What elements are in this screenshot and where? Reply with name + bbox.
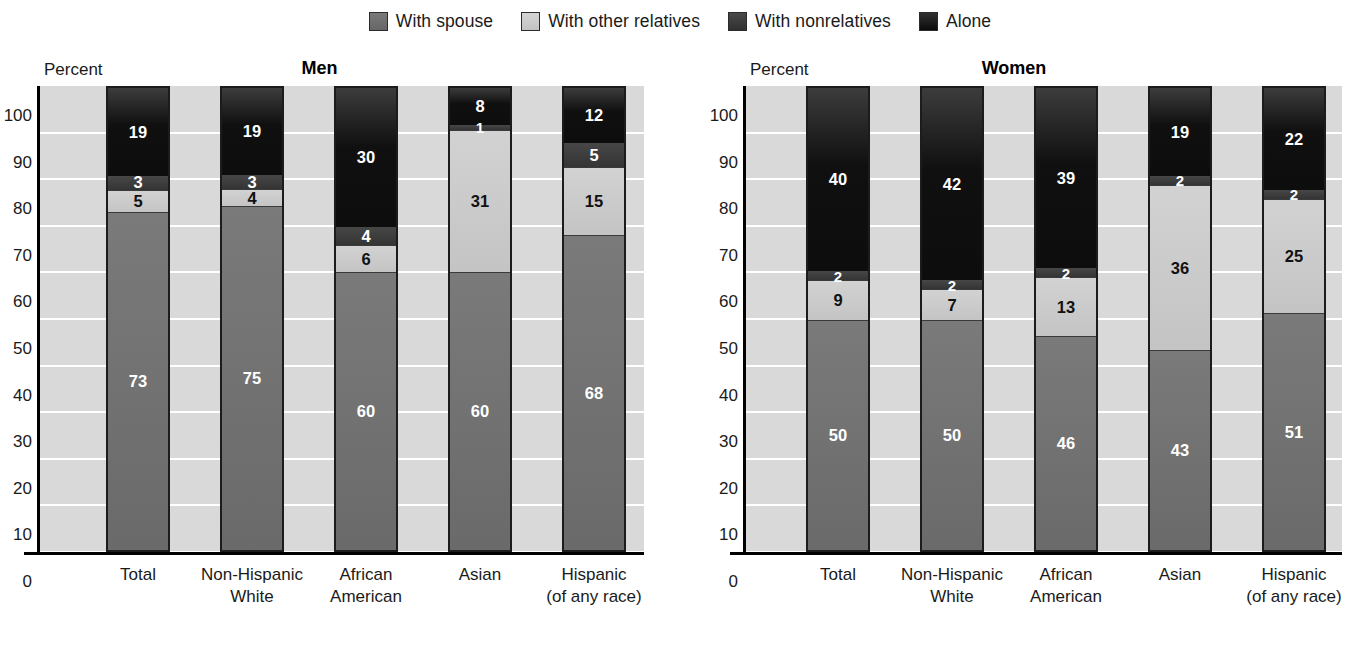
bar-segment-spouse[interactable]: 50 xyxy=(922,321,982,550)
bar-segment-nonrelatives[interactable]: 3 xyxy=(222,175,282,189)
y-axis-caption-men: Percent xyxy=(44,60,103,80)
bar-segment-value: 2 xyxy=(1176,173,1184,188)
bar-segment-nonrelatives[interactable]: 2 xyxy=(808,271,868,280)
y-axis-caption-women: Percent xyxy=(750,60,809,80)
bar-segment-value: 4 xyxy=(247,190,256,207)
bar-segment-value: 19 xyxy=(1171,124,1189,141)
bar-segment-nonrelatives[interactable]: 5 xyxy=(564,143,624,166)
bar-segment-nonrelatives[interactable]: 2 xyxy=(922,280,982,289)
bar-group-women: 402950422750392134619236432222551 xyxy=(746,86,1342,552)
legend-item-alone: Alone xyxy=(919,11,991,32)
bar-segment-value: 5 xyxy=(133,193,142,210)
y-axis-tick: 70 xyxy=(13,246,32,266)
x-axis-label: Hispanic(of any race) xyxy=(1224,564,1360,608)
x-axis-label: Hispanic(of any race) xyxy=(524,564,664,608)
chart-panel-women: Women Percent 1009080706050403020100 402… xyxy=(688,56,1360,646)
bar-segment-value: 7 xyxy=(947,297,956,314)
x-axis-line-women xyxy=(730,552,1342,555)
bar-segment-alone[interactable]: 19 xyxy=(222,88,282,175)
bar-segment-value: 36 xyxy=(1171,260,1189,277)
bar-segment-relatives[interactable]: 9 xyxy=(808,280,868,321)
x-axis-line-men xyxy=(24,552,644,555)
bar-segment-spouse[interactable]: 46 xyxy=(1036,337,1096,550)
y-axis-tick: 40 xyxy=(719,386,738,406)
y-axis-tick: 70 xyxy=(719,246,738,266)
bar-segment-relatives[interactable]: 25 xyxy=(1264,199,1324,315)
bar-segment-value: 31 xyxy=(471,193,489,210)
bar-segment-value: 25 xyxy=(1285,248,1303,265)
legend-swatch-icon xyxy=(369,12,388,31)
bar-segment-spouse[interactable]: 73 xyxy=(108,213,168,550)
bar-segment-spouse[interactable]: 75 xyxy=(222,207,282,550)
bar-segment-value: 6 xyxy=(361,251,370,268)
x-axis-label-line1: Hispanic xyxy=(1224,564,1360,586)
bar-segment-alone[interactable]: 30 xyxy=(336,88,396,227)
legend-label: With nonrelatives xyxy=(755,11,891,32)
bar-segment-nonrelatives[interactable]: 2 xyxy=(1036,268,1096,277)
bar-segment-relatives[interactable]: 6 xyxy=(336,245,396,273)
bar-segment-value: 12 xyxy=(585,107,603,124)
stacked-bar[interactable]: 3921346 xyxy=(1034,86,1098,552)
bar-segment-value: 3 xyxy=(133,174,142,191)
y-axis-tick: 30 xyxy=(719,432,738,452)
bar-segment-alone[interactable]: 19 xyxy=(108,88,168,176)
bar-segment-spouse[interactable]: 51 xyxy=(1264,314,1324,550)
x-axis-labels-men: TotalNon-HispanicWhiteAfricanAmericanAsi… xyxy=(0,558,675,642)
stacked-bar[interactable]: 193573 xyxy=(106,86,170,552)
bar-segment-nonrelatives[interactable]: 4 xyxy=(336,227,396,245)
bar-segment-nonrelatives[interactable]: 2 xyxy=(1150,176,1210,185)
bar-segment-value: 40 xyxy=(829,171,847,188)
bar-segment-alone[interactable]: 22 xyxy=(1264,88,1324,190)
bar-segment-nonrelatives[interactable]: 2 xyxy=(1264,190,1324,199)
bar-segment-relatives[interactable]: 31 xyxy=(450,130,510,273)
bar-segment-alone[interactable]: 40 xyxy=(808,88,868,271)
bar-segment-value: 75 xyxy=(243,370,261,387)
bar-segment-value: 46 xyxy=(1057,435,1075,452)
y-axis-tick: 80 xyxy=(13,199,32,219)
x-axis-label-line2: (of any race) xyxy=(1224,586,1360,608)
bar-segment-alone[interactable]: 39 xyxy=(1036,88,1096,268)
bar-segment-alone[interactable]: 42 xyxy=(922,88,982,280)
legend-item-with-nonrelatives: With nonrelatives xyxy=(728,11,891,32)
stacked-bar[interactable]: 813160 xyxy=(448,86,512,552)
y-axis-tick: 100 xyxy=(4,106,32,126)
y-axis-tick: 60 xyxy=(13,292,32,312)
bar-segment-alone[interactable]: 19 xyxy=(1150,88,1210,176)
chart-panel-men: Men Percent 1009080706050403020100 19357… xyxy=(0,56,675,646)
bar-segment-relatives[interactable]: 15 xyxy=(564,167,624,236)
bar-segment-relatives[interactable]: 5 xyxy=(108,190,168,213)
bar-segment-nonrelatives[interactable]: 3 xyxy=(108,176,168,190)
bar-segment-relatives[interactable]: 13 xyxy=(1036,277,1096,337)
bar-segment-relatives[interactable]: 36 xyxy=(1150,185,1210,351)
bar-segment-spouse[interactable]: 68 xyxy=(564,236,624,550)
stacked-bar[interactable]: 1923643 xyxy=(1148,86,1212,552)
bar-segment-spouse[interactable]: 60 xyxy=(336,273,396,550)
bar-segment-alone[interactable]: 12 xyxy=(564,88,624,143)
bar-segment-relatives[interactable]: 4 xyxy=(222,189,282,207)
bar-segment-spouse[interactable]: 43 xyxy=(1150,351,1210,550)
bar-segment-value: 19 xyxy=(129,124,147,141)
stacked-bar[interactable]: 2222551 xyxy=(1262,86,1326,552)
y-axis-ticks-women: 1009080706050403020100 xyxy=(688,86,744,552)
bar-segment-spouse[interactable]: 50 xyxy=(808,321,868,550)
y-axis-ticks-men: 1009080706050403020100 xyxy=(0,86,38,552)
legend-swatch-icon xyxy=(919,12,938,31)
bar-segment-value: 8 xyxy=(475,98,484,115)
y-axis-line-men xyxy=(37,86,40,555)
stacked-bar[interactable]: 402950 xyxy=(806,86,870,552)
stacked-bar[interactable]: 193475 xyxy=(220,86,284,552)
bar-segment-relatives[interactable]: 7 xyxy=(922,289,982,321)
plot-area-women: 402950422750392134619236432222551 xyxy=(746,86,1342,552)
stacked-bar[interactable]: 1251568 xyxy=(562,86,626,552)
stacked-bar[interactable]: 422750 xyxy=(920,86,984,552)
bar-segment-value: 30 xyxy=(357,149,375,166)
stacked-bar[interactable]: 304660 xyxy=(334,86,398,552)
bar-segment-value: 60 xyxy=(471,403,489,420)
bar-segment-value: 73 xyxy=(129,373,147,390)
plot-area-men: 1935731934753046608131601251568 xyxy=(40,86,644,552)
bar-segment-value: 2 xyxy=(1062,265,1070,280)
legend-swatch-icon xyxy=(521,12,540,31)
y-axis-tick: 30 xyxy=(13,432,32,452)
bar-segment-spouse[interactable]: 60 xyxy=(450,273,510,550)
legend-swatch-icon xyxy=(728,12,747,31)
